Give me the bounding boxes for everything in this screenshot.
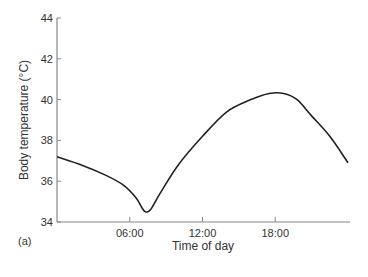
y-tick-label: 42 bbox=[41, 53, 53, 65]
y-tick-label: 44 bbox=[41, 12, 53, 24]
panel-label: (a) bbox=[18, 235, 31, 247]
temperature-curve bbox=[57, 93, 348, 212]
x-axis-label: Time of day bbox=[172, 239, 234, 253]
y-tick-label: 36 bbox=[41, 175, 53, 187]
chart: 343638404244 06:0012:0018:00 Time of day… bbox=[0, 0, 368, 277]
y-tick-label: 38 bbox=[41, 134, 53, 146]
y-axis: 343638404244 bbox=[41, 12, 61, 228]
x-axis: 06:0012:0018:00 bbox=[57, 217, 350, 239]
y-tick-label: 34 bbox=[41, 216, 53, 228]
x-tick-label: 06:00 bbox=[116, 227, 144, 239]
y-axis-label: Body temperature (°C) bbox=[17, 60, 31, 180]
x-tick-label: 12:00 bbox=[189, 227, 217, 239]
x-tick-label: 18:00 bbox=[261, 227, 289, 239]
y-tick-label: 40 bbox=[41, 94, 53, 106]
